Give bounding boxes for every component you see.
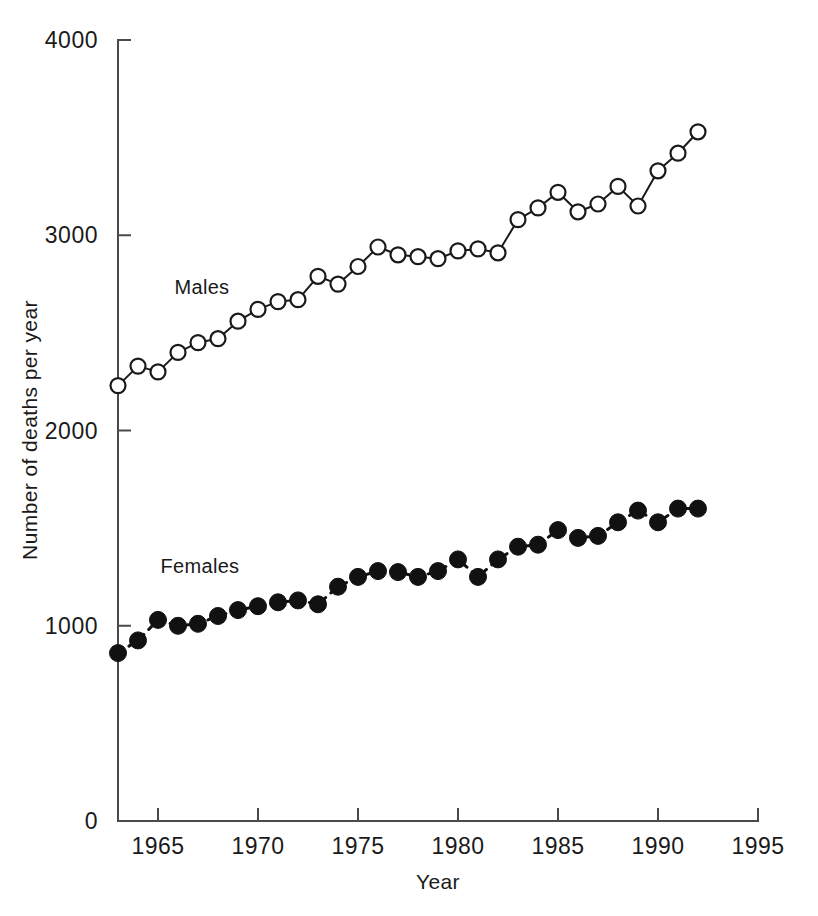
data-point-females-1986	[570, 529, 587, 546]
x-axis-title: Year	[416, 870, 460, 893]
data-point-females-1967	[190, 615, 207, 632]
data-point-males-1971	[271, 294, 286, 309]
y-tick-label-4000: 4000	[45, 27, 98, 53]
data-point-males-1977	[391, 247, 406, 262]
data-point-females-1980	[450, 551, 467, 568]
data-point-males-1978	[411, 249, 426, 264]
x-tick-label-1995: 1995	[731, 833, 784, 859]
data-point-males-1976	[371, 240, 386, 255]
data-point-females-1991	[670, 500, 687, 517]
data-point-males-1966	[171, 345, 186, 360]
data-point-females-1965	[150, 611, 167, 628]
data-point-males-1985	[551, 185, 566, 200]
data-point-females-1972	[290, 592, 307, 609]
data-point-females-1968	[210, 608, 227, 625]
x-tick-label-1985: 1985	[531, 833, 584, 859]
data-point-males-1970	[251, 302, 266, 317]
data-point-females-1983	[510, 538, 527, 555]
chart-figure: 01000200030004000 1965197019751980198519…	[0, 0, 818, 916]
x-tick-label-1990: 1990	[631, 833, 684, 859]
x-tick-marks	[158, 808, 758, 821]
series-line-females	[118, 509, 698, 653]
data-point-females-1970	[250, 598, 267, 615]
y-tick-labels: 01000200030004000	[45, 27, 98, 834]
data-point-males-1992	[691, 124, 706, 139]
data-point-females-1963	[110, 645, 127, 662]
data-point-males-1991	[671, 146, 686, 161]
series-markers	[110, 124, 707, 661]
y-tick-label-3000: 3000	[45, 222, 98, 248]
data-point-females-1988	[610, 514, 627, 531]
data-point-males-1964	[131, 359, 146, 374]
data-point-males-1969	[231, 314, 246, 329]
y-tick-label-2000: 2000	[45, 418, 98, 444]
data-point-males-1980	[451, 243, 466, 258]
x-tick-label-1970: 1970	[231, 833, 284, 859]
data-point-males-1967	[191, 335, 206, 350]
data-point-females-1990	[650, 514, 667, 531]
data-point-females-1979	[430, 563, 447, 580]
y-tick-label-0: 0	[85, 808, 98, 834]
data-point-males-1965	[151, 364, 166, 379]
line-chart: 01000200030004000 1965197019751980198519…	[0, 0, 818, 916]
data-point-females-1975	[350, 568, 367, 585]
data-point-males-1982	[491, 245, 506, 260]
data-point-females-1982	[490, 551, 507, 568]
series-label-females: Females	[161, 555, 240, 577]
data-point-females-1976	[370, 563, 387, 580]
data-point-females-1989	[630, 502, 647, 519]
x-tick-label-1980: 1980	[431, 833, 484, 859]
y-axis-title: Number of deaths per year	[18, 300, 41, 560]
data-point-males-1973	[311, 269, 326, 284]
data-point-males-1987	[591, 197, 606, 212]
data-point-females-1984	[530, 536, 547, 553]
axis-lines	[118, 40, 758, 821]
data-point-females-1977	[390, 564, 407, 581]
data-point-females-1985	[550, 522, 567, 539]
series-label-males: Males	[175, 276, 230, 298]
series-annotations: MalesFemales	[161, 276, 240, 577]
data-point-females-1974	[330, 578, 347, 595]
data-point-males-1983	[511, 212, 526, 227]
data-point-males-1984	[531, 200, 546, 215]
x-tick-label-1965: 1965	[131, 833, 184, 859]
data-point-males-1975	[351, 259, 366, 274]
data-point-males-1990	[651, 163, 666, 178]
data-point-males-1979	[431, 251, 446, 266]
data-point-females-1966	[170, 617, 187, 634]
y-tick-marks	[118, 40, 131, 626]
data-point-males-1981	[471, 241, 486, 256]
data-point-females-1992	[690, 500, 707, 517]
data-point-females-1964	[130, 632, 147, 649]
data-point-males-1963	[111, 378, 126, 393]
data-point-females-1978	[410, 568, 427, 585]
data-point-males-1989	[631, 199, 646, 214]
data-point-females-1987	[590, 527, 607, 544]
data-point-females-1969	[230, 602, 247, 619]
data-point-females-1973	[310, 596, 327, 613]
data-point-males-1986	[571, 204, 586, 219]
x-tick-label-1975: 1975	[331, 833, 384, 859]
data-point-males-1968	[211, 331, 226, 346]
data-point-females-1981	[470, 568, 487, 585]
data-point-males-1974	[331, 277, 346, 292]
data-point-males-1988	[611, 179, 626, 194]
data-point-males-1972	[291, 292, 306, 307]
y-tick-label-1000: 1000	[45, 613, 98, 639]
data-point-females-1971	[270, 594, 287, 611]
x-tick-labels: 1965197019751980198519901995	[131, 833, 784, 859]
